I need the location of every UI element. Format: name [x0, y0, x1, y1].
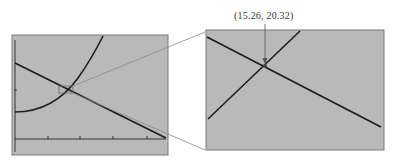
overview-graph: [12, 35, 168, 155]
zoomed-graph: [206, 24, 384, 150]
overview-screen: [12, 35, 168, 155]
figure: [0, 0, 393, 163]
intersection-label: (15.26, 20.32): [234, 10, 293, 21]
zoomed-screen: [206, 30, 384, 150]
intersection-point: [263, 64, 267, 68]
